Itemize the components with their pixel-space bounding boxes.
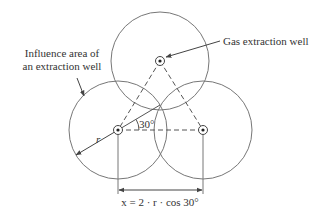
label-radius: r	[96, 133, 101, 145]
label-angle: 30°	[139, 118, 154, 130]
well-dot-icon	[116, 128, 119, 131]
leader-influence-area	[77, 78, 84, 96]
well-left	[114, 126, 123, 135]
label-gas-well: Gas extraction well	[223, 35, 309, 47]
well-spacing-diagram: Influence area of an extraction well Gas…	[0, 0, 328, 216]
well-right	[199, 126, 208, 135]
well-top	[156, 57, 165, 66]
label-formula: x = 2 · r · cos 30°	[121, 196, 199, 208]
leader-gas-well	[166, 41, 220, 57]
label-influence-area-line2: an extraction well	[23, 60, 102, 72]
label-influence-area-line1: Influence area of	[25, 47, 100, 59]
well-dot-icon	[158, 59, 161, 62]
well-dot-icon	[201, 128, 204, 131]
dashed-triangle	[118, 61, 203, 130]
